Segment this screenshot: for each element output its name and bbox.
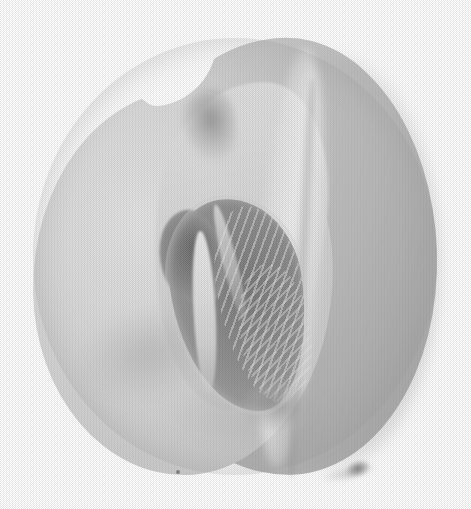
image-canvas	[0, 0, 471, 509]
melon-figure	[33, 38, 437, 475]
rind-fleck	[176, 470, 180, 474]
